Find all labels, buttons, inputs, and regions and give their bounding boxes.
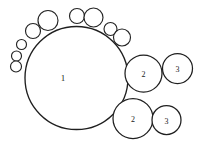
small-circle-5 [11,61,22,72]
small-circle-9 [114,29,131,46]
small-circle-4 [12,51,22,61]
medium-circle-label-4: 3 [165,117,169,126]
medium-circle-label-3: 2 [131,115,135,124]
medium-circle-label-2: 3 [176,65,180,74]
medium-circle-label-1: 2 [142,70,146,79]
main-circle-group: 1 [25,27,128,130]
figure-canvas: 1 2323 [0,0,203,146]
main-circle [25,27,128,130]
small-circle-3 [17,40,27,50]
circle-packing-diagram: 1 2323 [0,0,203,146]
small-circle-6 [70,9,85,24]
small-circle-7 [84,8,103,27]
small-circle-1 [38,11,58,31]
main-circle-label: 1 [61,73,66,83]
small-circle-2 [26,24,41,39]
